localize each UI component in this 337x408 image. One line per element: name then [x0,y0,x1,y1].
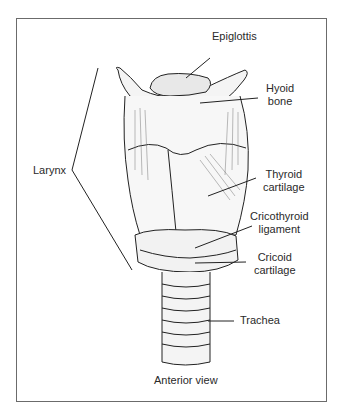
label-trachea: Trachea [240,314,280,327]
label-larynx: Larynx [33,164,66,177]
larynx-illustration [0,0,337,408]
label-thyroid-cartilage: Thyroidcartilage [263,168,305,194]
label-cricothyroid-ligament: Cricothyroidligament [250,210,309,236]
label-epiglottis: Epiglottis [212,30,257,43]
label-cricoid-cartilage: Cricoidcartilage [254,251,296,277]
label-hyoid-bone: Hyoidbone [266,82,294,108]
figure-caption: Anterior view [154,374,218,387]
